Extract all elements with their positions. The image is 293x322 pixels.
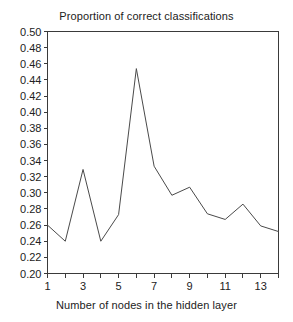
plot-axis-frame [48, 32, 279, 274]
y-tick-label: 0.22 [20, 251, 41, 263]
y-tick-label: 0.48 [20, 42, 41, 54]
y-tick-label: 0.36 [20, 138, 41, 150]
data-series-line [48, 69, 279, 242]
line-chart-plot: 0.500.480.460.440.420.400.380.360.340.32… [0, 0, 293, 322]
chart-figure: Proportion of correct classifications 0.… [0, 0, 293, 322]
x-tick-label: 3 [80, 280, 86, 292]
x-axis-label: Number of nodes in the hidden layer [0, 299, 293, 311]
y-tick-label: 0.34 [20, 155, 41, 167]
y-tick-label: 0.30 [20, 187, 41, 199]
y-axis-tick-marks [44, 32, 48, 274]
y-tick-label: 0.40 [20, 106, 41, 118]
y-tick-label: 0.46 [20, 58, 41, 70]
x-tick-label: 5 [116, 280, 122, 292]
y-tick-label: 0.26 [20, 219, 41, 231]
x-tick-label: 1 [44, 280, 50, 292]
y-tick-label: 0.24 [20, 235, 41, 247]
y-tick-label: 0.50 [20, 26, 41, 38]
x-tick-label: 7 [151, 280, 157, 292]
x-axis-tick-labels: 135791113 [44, 280, 266, 292]
y-tick-label: 0.42 [20, 90, 41, 102]
x-axis-tick-marks [48, 274, 279, 278]
y-tick-label: 0.28 [20, 203, 41, 215]
x-tick-label: 11 [219, 280, 230, 292]
y-tick-label: 0.20 [20, 268, 41, 280]
y-tick-label: 0.38 [20, 122, 41, 134]
y-tick-label: 0.32 [20, 171, 41, 183]
x-tick-label: 9 [187, 280, 193, 292]
y-axis-tick-labels: 0.500.480.460.440.420.400.380.360.340.32… [20, 26, 41, 280]
y-tick-label: 0.44 [20, 74, 41, 86]
x-tick-label: 13 [255, 280, 267, 292]
